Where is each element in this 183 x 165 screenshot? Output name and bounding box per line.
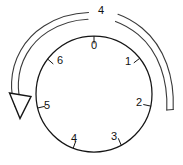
- dial-label-group: 0 1 2 3 4 5 6: [44, 39, 142, 144]
- sweep-ribbon-group: [10, 13, 174, 119]
- sweep-arrow-label: 4: [98, 4, 104, 16]
- dial-tick-1: [134, 58, 140, 63]
- dial-label-4: 4: [71, 132, 77, 144]
- diagram-canvas: 4 0 1 2 3 4 5 6: [0, 0, 183, 165]
- dial-label-5: 5: [44, 99, 50, 111]
- arrowhead-icon: [10, 93, 32, 119]
- dial-tick-3: [118, 138, 121, 145]
- ribbon-outer-edge-left: [12, 13, 89, 107]
- dial-label-0: 0: [91, 39, 97, 51]
- dial-label-6: 6: [57, 54, 63, 66]
- rotation-diagram-figure: 4 0 1 2 3 4 5 6: [0, 0, 183, 165]
- dial-tick-6: [48, 59, 54, 64]
- ribbon-inner-edge-left: [18, 19, 88, 104]
- ribbon-tail-end-cap: [167, 110, 173, 111]
- dial-tick-2: [143, 105, 150, 107]
- dial-label-2: 2: [136, 96, 142, 108]
- dial-label-1: 1: [125, 55, 131, 67]
- dial-label-3: 3: [111, 130, 117, 142]
- dial-circle-outline: [36, 36, 152, 152]
- dial-tick-group: [38, 36, 151, 148]
